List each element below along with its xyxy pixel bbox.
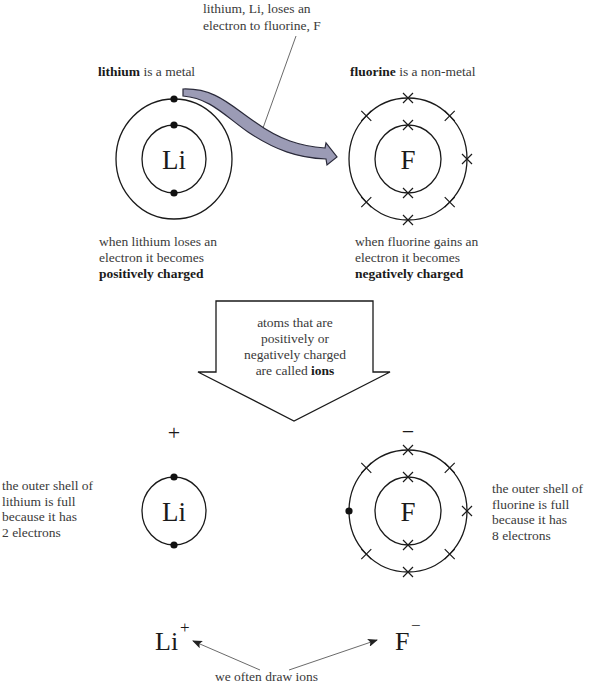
electron-dot — [170, 541, 177, 548]
lithium-heading-rest: is a metal — [140, 64, 195, 79]
lithium-formula-charge: + — [180, 618, 190, 637]
lithium-ion-note-line: lithium is full — [2, 494, 76, 509]
big-arrow-last-line: are called ions — [256, 363, 335, 378]
lithium-caption-line: electron it becomes — [99, 250, 204, 265]
big-arrow-line: negatively charged — [244, 347, 346, 362]
fluorine-heading-bold: fluorine — [350, 64, 396, 79]
transfer-caption: lithium, Li, loses an electron to fluori… — [203, 1, 321, 33]
outer-electron-dot — [170, 95, 177, 102]
lithium-caption-line: when lithium loses an — [99, 234, 217, 249]
electron-cross — [445, 197, 455, 207]
lithium-atom: Li — [116, 95, 232, 219]
transfer-caption-line: electron to fluorine, F — [203, 18, 321, 33]
lithium-heading: lithium is a metal — [98, 64, 195, 79]
fluorine-ion: F — [345, 445, 472, 577]
electron-dot — [170, 121, 177, 128]
fluorine-ion-note: the outer shell of fluorine is full beca… — [492, 481, 584, 543]
fluorine-formula-symbol: F — [395, 627, 409, 656]
pointer-arrow-to-lithium — [193, 641, 260, 670]
fluorine-heading: fluorine is a non-metal — [350, 64, 476, 79]
fluorine-ion-charge: − — [402, 419, 414, 444]
big-arrow-line: positively or — [261, 331, 329, 346]
electron-cross — [361, 549, 371, 559]
lithium-symbol: Li — [162, 145, 186, 175]
pointer-arrow-to-fluorine — [289, 640, 377, 670]
electron-cross — [445, 463, 455, 473]
lithium-caption: when lithium loses an electron it become… — [99, 234, 217, 281]
formula-caption: we often draw ions — [215, 669, 318, 684]
electron-dot — [170, 473, 177, 480]
fluorine-caption-line: electron it becomes — [355, 250, 460, 265]
gained-electron-dot — [345, 507, 352, 514]
lithium-ion-note-line: 2 electrons — [2, 525, 61, 540]
fluorine-symbol: F — [400, 145, 415, 175]
big-arrow-ions-word: ions — [311, 363, 334, 378]
fluorine-ion-note-line: the outer shell of — [492, 481, 584, 496]
electron-cross — [445, 549, 455, 559]
lithium-ion-charge: + — [168, 420, 180, 445]
fluorine-ion-note-line: fluorine is full — [492, 497, 569, 512]
fluorine-ion-note-line: 8 electrons — [492, 528, 551, 543]
lithium-formula-symbol: Li — [155, 627, 178, 656]
fluorine-ion-symbol: F — [400, 497, 415, 527]
electron-dot — [170, 189, 177, 196]
ionic-bonding-diagram: lithium, Li, loses an electron to fluori… — [0, 0, 592, 686]
fluorine-caption-bold: negatively charged — [355, 266, 464, 281]
lithium-ion-formula: Li + — [155, 618, 190, 656]
big-arrow-text: atoms that are positively or negatively … — [244, 315, 346, 378]
fluorine-ion-note-line: because it has — [492, 512, 567, 527]
big-arrow-last-line-text: are called — [256, 363, 311, 378]
big-arrow-line: atoms that are — [257, 315, 333, 330]
electron-cross — [361, 463, 371, 473]
electron-cross — [361, 111, 371, 121]
transfer-caption-line: lithium, Li, loses an — [203, 1, 311, 16]
lithium-heading-bold: lithium — [98, 64, 141, 79]
fluorine-caption: when fluorine gains an electron it becom… — [355, 234, 479, 281]
fluorine-atom: F — [349, 93, 472, 225]
lithium-caption-bold: positively charged — [99, 266, 204, 281]
fluorine-electrons — [361, 93, 472, 225]
electron-cross — [445, 111, 455, 121]
lithium-ion-note: the outer shell of lithium is full becau… — [2, 478, 94, 540]
fluorine-formula-charge: − — [411, 616, 421, 635]
fluorine-ion-formula: F − — [395, 616, 421, 656]
lithium-ion-symbol: Li — [162, 497, 186, 527]
electron-cross — [361, 197, 371, 207]
caption-leader-line — [263, 36, 296, 128]
lithium-ion-note-line: the outer shell of — [2, 478, 94, 493]
lithium-ion-note-line: because it has — [2, 509, 77, 524]
fluorine-caption-line: when fluorine gains an — [355, 234, 479, 249]
fluorine-heading-rest: is a non-metal — [396, 64, 476, 79]
lithium-ion: Li — [142, 473, 206, 548]
